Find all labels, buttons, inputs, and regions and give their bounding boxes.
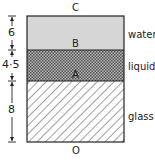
point-label-c: C (72, 3, 79, 13)
point-label-b: B (72, 39, 79, 49)
material-label-glass: glass (128, 112, 154, 122)
dimension-label-water: 6 (8, 28, 15, 38)
dimension-label-liquid: 4·5 (2, 60, 20, 70)
dimension-label-glass: 8 (8, 105, 15, 115)
glass-layer (27, 81, 124, 142)
material-label-water: water (128, 30, 155, 40)
point-label-a: A (72, 70, 79, 80)
material-label-liquid: liquid (128, 62, 155, 72)
point-label-o: O (72, 146, 80, 156)
layer-diagram (0, 0, 155, 160)
